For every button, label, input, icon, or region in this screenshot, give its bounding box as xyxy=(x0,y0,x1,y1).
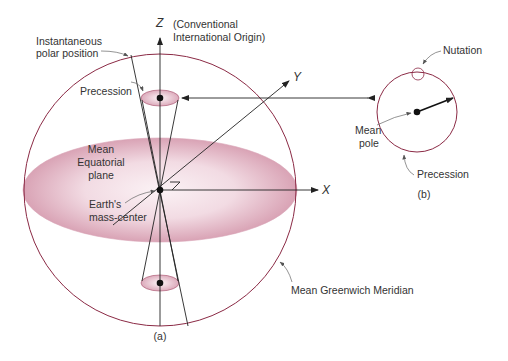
panel-a: Z (Conventional International Origin) Y … xyxy=(23,16,414,342)
plane-label-line2: Equatorial xyxy=(77,156,124,168)
meridian-leader xyxy=(280,262,292,282)
panel-b: Nutation Mean pole Precession (b) xyxy=(355,44,482,200)
x-axis-label: X xyxy=(321,183,331,197)
plane-label-line1: Mean xyxy=(88,143,114,155)
mean-pole-label-line1: Mean xyxy=(355,124,381,136)
y-axis-label: Y xyxy=(293,70,302,84)
precession-label-a: Precession xyxy=(80,85,132,97)
nutation-circle xyxy=(412,68,424,80)
mass-center-dot xyxy=(157,187,164,194)
mean-pole-dot xyxy=(414,109,421,116)
panel-a-caption: (a) xyxy=(154,330,167,342)
earth-reference-frame-diagram: Z (Conventional International Origin) Y … xyxy=(0,0,508,361)
plane-label-line3: plane xyxy=(88,169,114,181)
instantaneous-label-line2: polar position xyxy=(36,47,99,59)
center-label-line2: mass-center xyxy=(89,211,147,223)
instantaneous-label-line1: Instantaneous xyxy=(36,35,102,47)
precession-label-b: Precession xyxy=(417,168,469,180)
pole-vector-arrow xyxy=(417,98,453,112)
nutation-leader xyxy=(423,51,441,64)
z-annotation-line2: International Origin) xyxy=(173,31,265,43)
meridian-label: Mean Greenwich Meridian xyxy=(291,284,414,296)
pole-dot-top xyxy=(157,95,164,102)
nutation-label: Nutation xyxy=(443,44,482,56)
panel-b-caption: (b) xyxy=(418,188,431,200)
z-axis-label: Z xyxy=(155,16,164,30)
center-label-line1: Earth's xyxy=(89,198,121,210)
mean-pole-label-line2: pole xyxy=(359,137,379,149)
z-annotation-line1: (Conventional xyxy=(173,18,238,30)
mean-pole-leader xyxy=(377,113,411,125)
pole-dot-bottom xyxy=(157,280,164,287)
precession-leader-b xyxy=(404,155,414,175)
instantaneous-leader xyxy=(101,51,128,56)
